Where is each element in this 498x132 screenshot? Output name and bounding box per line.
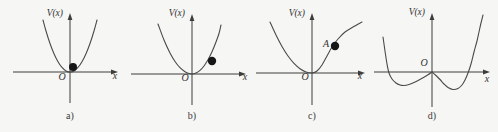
y-axis-arrowhead-icon [310,13,315,20]
ball [208,57,216,65]
y-axis-arrowhead-icon [430,13,435,20]
panel-d: V(x)xO d) [372,0,498,132]
y-axis-label: V(x) [289,8,305,19]
plot-a: V(x)xO [0,0,124,132]
panel-a: V(x)xO a) [0,0,124,132]
potential-curve [432,15,483,90]
y-axis-label: V(x) [409,7,425,18]
origin-label: O [420,57,427,68]
plot-b: V(x)xO [124,0,248,132]
y-axis-label: V(x) [169,8,185,19]
panel-caption-a: a) [66,110,74,121]
x-axis-label: x [484,73,490,84]
panel-caption-c: c) [308,110,316,121]
x-axis-label: x [112,70,118,81]
potential-curve [270,22,362,73]
origin-label: O [58,71,65,82]
potential-curve [158,24,221,74]
origin-label: O [181,72,188,83]
y-axis-arrowhead-icon [190,14,195,21]
y-axis-label: V(x) [47,8,63,19]
ball-label: A [322,38,330,49]
panel-b: V(x)xO b) [124,0,248,132]
ball [69,63,77,71]
panel-caption-d: d) [428,110,436,121]
panel-c: AV(x)xO c) [248,0,372,132]
panel-caption-b: b) [188,110,196,121]
ball [331,42,339,50]
origin-label: O [301,71,308,82]
potential-curves-figure: V(x)xO a) V(x)xO b) AV(x)xO c) V(x)xO d) [0,0,498,132]
y-axis-arrowhead-icon [68,13,73,20]
x-axis-label: x [357,70,363,81]
x-axis-label: x [242,71,248,82]
